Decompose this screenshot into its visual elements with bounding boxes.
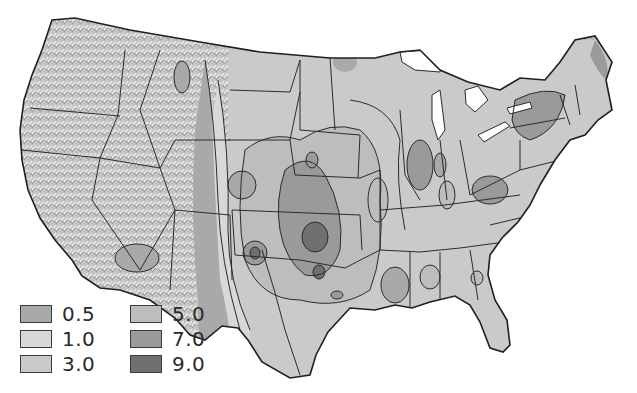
- legend-item-7-0: 7.0: [130, 329, 240, 349]
- zone-7-0-nebraska: [306, 152, 318, 168]
- zone-9-0-south: [313, 265, 325, 279]
- legend-label: 3.0: [62, 352, 95, 376]
- zone-7-0-kentucky: [472, 176, 508, 204]
- legend-swatch: [20, 305, 52, 323]
- zone-5-0-mississippi: [420, 265, 440, 289]
- legend-label: 9.0: [172, 352, 205, 376]
- legend-swatch: [20, 355, 52, 373]
- zone-0-5-dakota-north: [333, 52, 357, 72]
- legend-item-9-0: 9.0: [130, 354, 240, 374]
- zone-9-0-oklahoma: [302, 222, 328, 252]
- legend-item-1-0: 1.0: [20, 329, 130, 349]
- zone-0-5-montana: [174, 61, 190, 93]
- legend-label: 1.0: [62, 327, 95, 351]
- map-legend: 0.5 5.0 1.0 7.0 3.0 9.0: [20, 304, 240, 374]
- legend-item-0-5: 0.5: [20, 304, 130, 324]
- zone-7-0-florida: [508, 305, 532, 345]
- legend-label: 5.0: [172, 302, 205, 326]
- legend-swatch: [130, 330, 162, 348]
- legend-label: 0.5: [62, 302, 95, 326]
- zone-7-0-texas-east: [331, 291, 343, 299]
- zone-5-0-georgia: [471, 271, 483, 285]
- legend-swatch: [20, 330, 52, 348]
- zone-5-0-missouri: [368, 178, 388, 222]
- zone-7-0-illinois: [407, 140, 433, 190]
- zone-0-5-louisiana: [381, 267, 409, 303]
- zone-9-0-florida: [515, 318, 525, 334]
- legend-label: 7.0: [172, 327, 205, 351]
- legend-item-3-0: 3.0: [20, 354, 130, 374]
- legend-swatch: [130, 305, 162, 323]
- legend-swatch: [130, 355, 162, 373]
- legend-item-5-0: 5.0: [130, 304, 240, 324]
